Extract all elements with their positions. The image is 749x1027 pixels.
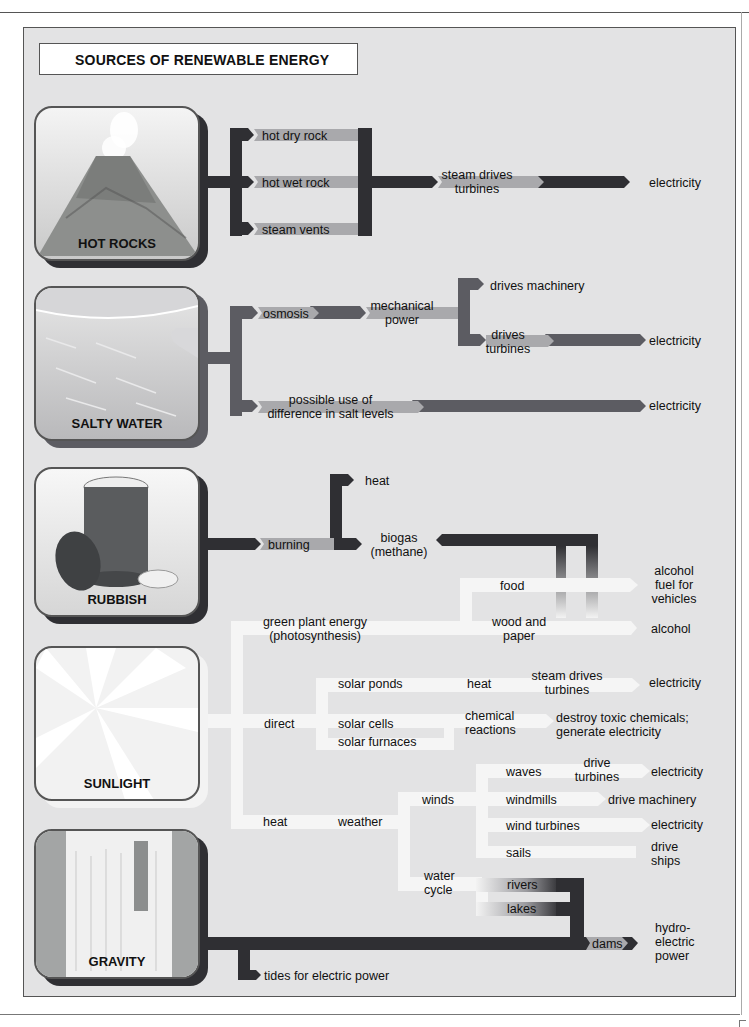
label-wind-turbines: wind turbines bbox=[506, 819, 580, 833]
label-electricity: electricity bbox=[651, 765, 703, 779]
salty-water-tile: SALTY WATER bbox=[34, 286, 200, 441]
label-mechanical-power: mechanical power bbox=[364, 299, 440, 327]
source-label-gravity: GRAVITY bbox=[36, 954, 198, 969]
label-burning: burning bbox=[268, 538, 310, 552]
label-water-cycle: water cycle bbox=[424, 869, 455, 897]
rubbish-tile: RUBBISH bbox=[34, 467, 200, 617]
label-tides: tides for electric power bbox=[264, 969, 389, 983]
label-steam-drives-turbines: steam drives turbines bbox=[432, 168, 522, 196]
label-steam-drives-turbines: steam drives turbines bbox=[522, 669, 612, 697]
source-label-sunlight: SUNLIGHT bbox=[36, 776, 198, 791]
label-dams: dams bbox=[592, 937, 623, 951]
label-windmills: windmills bbox=[506, 793, 557, 807]
label-drive-ships: drive ships bbox=[651, 840, 680, 868]
label-heat: heat bbox=[467, 677, 491, 691]
label-rivers: rivers bbox=[507, 878, 538, 892]
label-electricity: electricity bbox=[649, 334, 701, 348]
label-wood-and-paper: wood and paper bbox=[484, 615, 554, 643]
sunlight-tile: SUNLIGHT bbox=[34, 646, 200, 801]
label-heat: heat bbox=[365, 474, 389, 488]
label-sails: sails bbox=[506, 846, 531, 860]
label-hot-wet-rock: hot wet rock bbox=[262, 176, 329, 190]
label-alcohol: alcohol bbox=[651, 622, 691, 636]
label-salt-difference: possible use of difference in salt level… bbox=[258, 393, 403, 421]
label-hydro-electric-power: hydro- electric power bbox=[655, 921, 695, 963]
label-biogas-methane: biogas (methane) bbox=[364, 531, 434, 559]
label-green-plant-energy: green plant energy (photosynthesis) bbox=[256, 615, 374, 643]
label-weather: weather bbox=[338, 815, 382, 829]
source-label-hot-rocks: HOT ROCKS bbox=[36, 236, 198, 251]
label-direct: direct bbox=[264, 717, 295, 731]
label-drive-turbines: drive turbines bbox=[566, 756, 628, 784]
label-solar-ponds: solar ponds bbox=[338, 677, 403, 691]
label-electricity: electricity bbox=[651, 818, 703, 832]
label-chemical-reactions: chemical reactions bbox=[465, 709, 516, 737]
label-food: food bbox=[500, 579, 524, 593]
label-osmosis: osmosis bbox=[263, 307, 309, 321]
label-solar-cells: solar cells bbox=[338, 717, 394, 731]
label-electricity: electricity bbox=[649, 176, 701, 190]
label-electricity: electricity bbox=[649, 399, 701, 413]
source-label-rubbish: RUBBISH bbox=[36, 592, 198, 607]
label-heat: heat bbox=[263, 815, 287, 829]
label-drive-machinery: drive machinery bbox=[608, 793, 696, 807]
label-drives-turbines: drives turbines bbox=[478, 328, 538, 356]
label-drives-machinery: drives machinery bbox=[490, 279, 584, 293]
label-winds: winds bbox=[422, 793, 454, 807]
label-solar-furnaces: solar furnaces bbox=[338, 735, 417, 749]
label-alcohol-fuel-for-vehicles: alcohol fuel for vehicles bbox=[646, 564, 702, 606]
label-waves: waves bbox=[506, 765, 541, 779]
label-destroy-toxic-chemicals: destroy toxic chemicals; generate electr… bbox=[556, 711, 689, 739]
source-label-salty-water: SALTY WATER bbox=[36, 416, 198, 431]
label-steam-vents: steam vents bbox=[262, 223, 329, 237]
gravity-tile: GRAVITY bbox=[34, 829, 200, 979]
hot-rocks-tile: HOT ROCKS bbox=[34, 106, 200, 261]
label-electricity: electricity bbox=[649, 676, 701, 690]
label-hot-dry-rock: hot dry rock bbox=[262, 129, 327, 143]
label-lakes: lakes bbox=[507, 902, 536, 916]
